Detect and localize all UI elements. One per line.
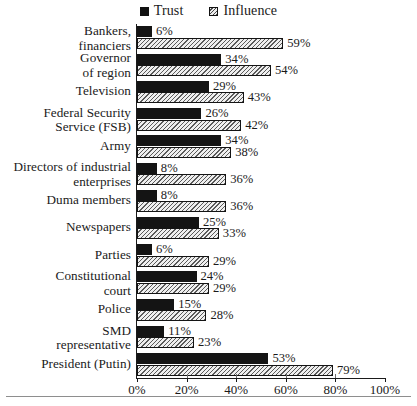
bar-group: 24%29%: [137, 269, 417, 296]
x-tick-mark-inner: [335, 374, 336, 378]
bar-group: 34%38%: [137, 133, 417, 160]
bar-group: 26%42%: [137, 106, 417, 133]
category-label: Governorof region: [0, 51, 131, 80]
x-tick-label: 40%: [224, 382, 248, 397]
x-tick-label: 60%: [274, 382, 298, 397]
category-label: Federal SecurityService (FSB): [0, 106, 131, 135]
chart-row: Army34%38%: [0, 133, 417, 160]
category-label: President (Putin): [0, 357, 131, 372]
bar-value-label: 38%: [235, 145, 258, 159]
bar-rect: [137, 65, 271, 76]
category-label-line: Governor: [0, 51, 131, 66]
x-axis-tick-labels: 0%20%40%60%80%100%: [0, 382, 417, 400]
category-label-line: Duma members: [0, 193, 131, 208]
category-label-line: Television: [0, 84, 131, 99]
bar-group: 53%79%: [137, 351, 417, 378]
x-tick-label: 100%: [370, 382, 400, 397]
legend-swatch-influence-icon: [209, 7, 218, 16]
bar-value-label: 54%: [275, 63, 298, 77]
bar-rect: [137, 256, 209, 267]
bar-trust: 8%: [137, 190, 157, 201]
x-tick-mark-inner: [286, 374, 287, 378]
bar-influence: 33%: [137, 228, 219, 239]
category-label-line: Newspapers: [0, 220, 131, 235]
bar-rect: [137, 163, 157, 174]
x-tick-label: 80%: [323, 382, 347, 397]
bar-value-label: 6%: [156, 24, 173, 38]
bar-rect: [137, 353, 268, 364]
bar-group: 8%36%: [137, 187, 417, 214]
bar-group: 11%23%: [137, 324, 417, 351]
category-label: Police: [0, 302, 131, 317]
bar-influence: 42%: [137, 120, 241, 131]
bar-trust: 11%: [137, 326, 164, 337]
x-axis-line: [136, 378, 386, 379]
bar-value-label: 6%: [156, 242, 173, 256]
bar-value-label: 29%: [213, 254, 236, 268]
bar-value-label: 36%: [230, 199, 253, 213]
category-label-line: Bankers,: [0, 24, 131, 39]
bar-rect: [137, 201, 226, 212]
category-label-line: Parties: [0, 248, 131, 263]
bar-trust: 53%: [137, 353, 268, 364]
legend-label-trust: Trust: [154, 4, 184, 18]
bar-group: 6%59%: [137, 24, 417, 51]
category-label-line: Army: [0, 139, 131, 154]
bottom-divider: [6, 396, 411, 397]
chart-row: Parties6%29%: [0, 242, 417, 269]
legend-swatch-trust-icon: [140, 7, 149, 16]
bar-rect: [137, 26, 152, 37]
bar-trust: 15%: [137, 299, 174, 310]
category-label: Duma members: [0, 193, 131, 208]
bar-influence: 23%: [137, 337, 194, 348]
chart-row: Governorof region34%54%: [0, 51, 417, 78]
bar-value-label: 11%: [168, 324, 191, 338]
bar-value-label: 15%: [178, 297, 201, 311]
chart-legend: Trust Influence: [0, 2, 417, 20]
bar-value-label: 28%: [210, 308, 233, 322]
bar-value-label: 79%: [337, 363, 360, 377]
bar-influence: 43%: [137, 92, 244, 103]
bar-rect: [137, 310, 206, 321]
x-tick-mark-inner: [187, 374, 188, 378]
bar-influence: 79%: [137, 365, 333, 376]
chart-row: Federal SecurityService (FSB)26%42%: [0, 106, 417, 133]
bar-group: 34%54%: [137, 51, 417, 78]
chart-row: President (Putin)53%79%: [0, 351, 417, 378]
category-label-line: Directors of industrial: [0, 160, 131, 175]
bar-rect: [137, 120, 241, 131]
bar-value-label: 34%: [225, 52, 248, 66]
bar-trust: 6%: [137, 244, 152, 255]
bar-influence: 28%: [137, 310, 206, 321]
category-label-line: President (Putin): [0, 357, 131, 372]
category-label: Directors of industrialenterprises: [0, 160, 131, 189]
bar-rect: [137, 108, 201, 119]
bar-rect: [137, 326, 164, 337]
bar-trust: 29%: [137, 81, 209, 92]
category-label-line: Police: [0, 302, 131, 317]
category-label: Television: [0, 84, 131, 99]
bar-group: 6%29%: [137, 242, 417, 269]
bar-value-label: 59%: [287, 36, 310, 50]
category-label: Army: [0, 139, 131, 154]
bar-influence: 38%: [137, 147, 231, 158]
bar-rect: [137, 217, 199, 228]
chart-row: SMDrepresentative11%23%: [0, 324, 417, 351]
bar-group: 8%36%: [137, 160, 417, 187]
bar-group: 29%43%: [137, 78, 417, 105]
legend-entry-trust: Trust: [140, 4, 184, 18]
bar-trust: 34%: [137, 54, 221, 65]
bar-trust: 8%: [137, 163, 157, 174]
legend-label-influence: Influence: [223, 4, 277, 18]
bar-group: 15%28%: [137, 296, 417, 323]
x-tick-label: 0%: [128, 382, 145, 397]
category-label-line: SMD: [0, 324, 131, 339]
bar-influence: 59%: [137, 38, 283, 49]
bar-rect: [137, 299, 174, 310]
chart-row: Duma members8%36%: [0, 187, 417, 214]
chart-row: Bankers,financiers6%59%: [0, 24, 417, 51]
bar-value-label: 29%: [213, 79, 236, 93]
bar-group: 25%33%: [137, 215, 417, 242]
bar-influence: 36%: [137, 174, 226, 185]
bar-influence: 54%: [137, 65, 271, 76]
